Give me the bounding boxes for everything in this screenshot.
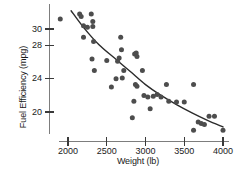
data-point <box>104 58 109 63</box>
scatter-plot-figure: Fuel Efficiency (mpg) Weight (lb) 202428… <box>0 0 239 174</box>
data-point <box>91 39 96 44</box>
data-point <box>191 128 196 133</box>
data-point <box>90 56 95 61</box>
data-point <box>134 84 139 89</box>
data-points <box>58 12 226 133</box>
data-point <box>90 24 95 29</box>
data-point <box>140 68 145 73</box>
data-point <box>134 54 139 59</box>
data-point <box>118 35 123 40</box>
data-point <box>221 128 226 133</box>
data-point <box>85 25 90 30</box>
data-point <box>164 82 169 87</box>
data-point <box>92 68 97 73</box>
data-point <box>159 95 164 100</box>
data-point <box>79 14 84 19</box>
data-point <box>182 100 187 105</box>
data-point <box>120 75 125 80</box>
data-point <box>58 17 63 22</box>
data-point <box>191 82 196 87</box>
data-point <box>109 85 114 90</box>
data-point <box>174 100 179 105</box>
data-point <box>81 35 86 40</box>
data-point <box>117 56 122 61</box>
data-point <box>148 106 153 111</box>
data-point <box>166 99 171 104</box>
data-point <box>89 12 94 17</box>
data-point <box>131 99 136 104</box>
data-point <box>202 122 207 127</box>
data-point <box>207 114 212 119</box>
data-point <box>130 115 135 120</box>
data-point <box>119 47 124 52</box>
data-point <box>90 19 95 24</box>
plot-area <box>0 0 239 174</box>
data-point <box>114 76 119 81</box>
data-point <box>121 68 126 73</box>
data-point <box>212 114 217 119</box>
data-point <box>145 95 150 100</box>
